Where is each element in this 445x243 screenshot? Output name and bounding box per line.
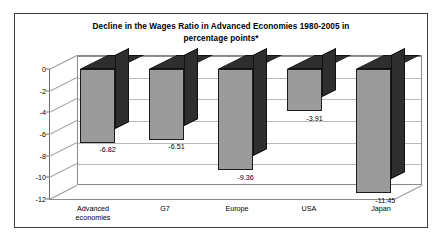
xtick-label-g7: G7 xyxy=(129,205,201,214)
ytick-label-m2: -2 xyxy=(40,86,46,95)
ytick-label-m6: -6 xyxy=(40,130,46,139)
bar-front-face-3 xyxy=(287,69,323,111)
chart-frame: Decline in the Wages Ratio in Advanced E… xyxy=(14,13,428,228)
xtick-label-japan: Japan xyxy=(345,205,417,214)
bar-value-label-3: -3.91 xyxy=(306,114,322,123)
bars-layer: -6.82-6.51-9.36-3.91-11.45 xyxy=(49,55,419,200)
bar-top-face-1 xyxy=(149,55,213,69)
plot-area: 0 -2 -4 -6 -8 -10 -12 xyxy=(49,55,419,200)
bar-front-face-2 xyxy=(218,69,254,170)
bar-top-face-3 xyxy=(287,55,351,69)
bar-side-face-0 xyxy=(115,48,129,129)
bar-top-face-0 xyxy=(80,55,144,69)
bar-side-face-4 xyxy=(391,48,405,179)
chart-title-line-2: percentage points* xyxy=(15,33,427,45)
ytick-label-0: 0 xyxy=(42,65,46,74)
xtick-label-advanced-economies: Advanced economies xyxy=(57,205,129,222)
ytick-label-m10: -10 xyxy=(36,173,46,182)
bar-top-face-2 xyxy=(218,55,282,69)
bar-value-label-0: -6.82 xyxy=(99,145,115,154)
bar-front-face-0 xyxy=(80,69,116,143)
bar-side-face-3 xyxy=(322,48,336,97)
xtick-label-usa: USA xyxy=(273,205,345,214)
bar-value-label-1: -6.51 xyxy=(168,142,184,151)
ytick-label-m4: -4 xyxy=(40,108,46,117)
bar-top-face-4 xyxy=(356,55,420,69)
bar-side-face-2 xyxy=(253,48,267,156)
ytick-label-m8: -8 xyxy=(40,151,46,160)
bar-value-label-2: -9.36 xyxy=(237,173,253,182)
bar-front-face-4 xyxy=(356,69,392,193)
chart-title-line-1: Decline in the Wages Ratio in Advanced E… xyxy=(15,21,427,33)
bar-front-face-1 xyxy=(149,69,185,140)
ytick-label-m12: -12 xyxy=(36,195,46,204)
xtick-label-europe: Europe xyxy=(201,205,273,214)
bar-side-face-1 xyxy=(184,48,198,126)
chart-title: Decline in the Wages Ratio in Advanced E… xyxy=(15,21,427,45)
